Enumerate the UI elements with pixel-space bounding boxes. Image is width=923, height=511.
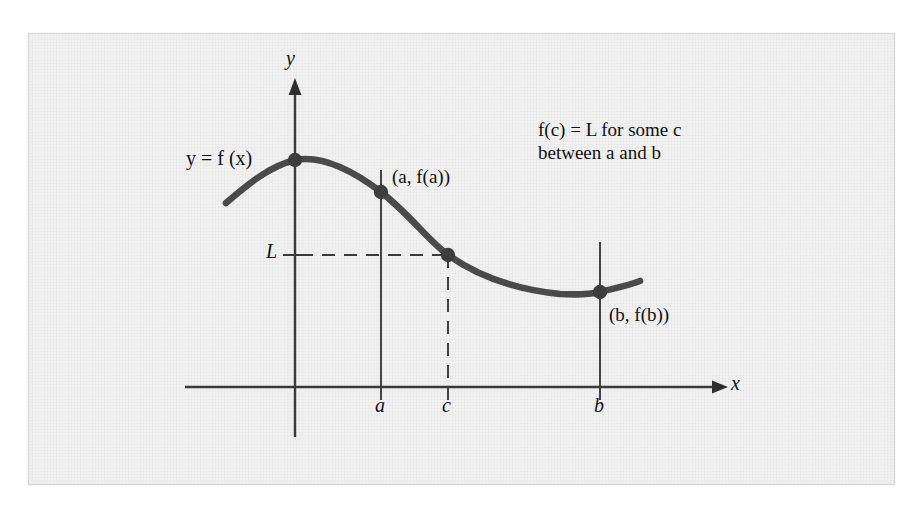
figure-root: y = f (x) (a, f(a)) (b, f(b)) L x y a c …	[0, 0, 923, 511]
figure-graphic	[0, 0, 923, 511]
x-axis	[185, 381, 728, 394]
point-peak	[288, 153, 302, 167]
annotation-note-line-2: between a and b	[538, 141, 681, 164]
curve-label: y = f (x)	[186, 146, 252, 170]
x-tick-label-a: a	[375, 393, 385, 417]
point-a	[374, 185, 388, 199]
point-b	[593, 285, 607, 299]
value-label-L: L	[266, 239, 277, 263]
annotation-note: f(c) = L for some c between a and b	[538, 118, 681, 164]
point-c	[441, 248, 455, 262]
point-a-label: (a, f(a))	[392, 165, 450, 188]
y-axis-label: y	[286, 46, 295, 70]
x-tick-label-b: b	[594, 393, 604, 417]
point-b-label: (b, f(b))	[609, 303, 669, 326]
y-axis	[289, 78, 302, 437]
x-axis-label: x	[731, 371, 740, 395]
annotation-note-line-1: f(c) = L for some c	[538, 118, 681, 141]
x-tick-label-c: c	[442, 393, 451, 417]
